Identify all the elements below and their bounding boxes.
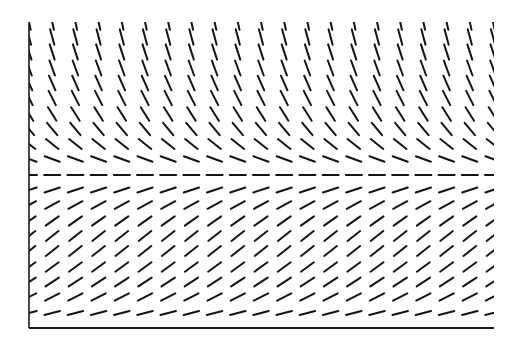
slope-segment [393, 188, 408, 193]
slope-segment [185, 278, 198, 287]
slope-segment [231, 201, 245, 209]
slope-segment [397, 91, 404, 105]
slope-segment [323, 293, 337, 300]
slope-segment [207, 293, 221, 300]
slope-segment [208, 278, 221, 287]
slope-segment [347, 216, 360, 225]
slope-segment [236, 29, 240, 44]
slope-segment [301, 139, 314, 149]
slope-segment [51, 14, 54, 30]
slope-segment [185, 246, 198, 256]
slope-segment [489, 107, 497, 121]
slope-segment [184, 311, 199, 315]
slope-segment [235, 60, 240, 75]
slope-segment [468, 29, 472, 44]
slope-segment [161, 278, 174, 287]
slope-segment [416, 156, 431, 161]
slope-segment [48, 107, 56, 121]
slope-segment [114, 188, 129, 193]
slope-segment [74, 14, 77, 30]
slope-segment [397, 76, 404, 91]
slope-segment [440, 139, 453, 149]
slope-segment [116, 231, 129, 241]
slope-segment [91, 156, 106, 161]
slope-segment [486, 201, 500, 209]
slope-segment [466, 91, 473, 105]
slope-segment [323, 311, 338, 315]
slope-segment [162, 139, 175, 149]
slope-segment [418, 123, 428, 135]
slope-segment [47, 123, 57, 135]
slope-segment [278, 216, 291, 225]
slope-segment [234, 107, 242, 121]
slope-segment [207, 156, 222, 161]
slope-segment [139, 139, 152, 149]
slope-segment [370, 201, 384, 209]
slope-segment [277, 188, 292, 193]
slope-segment [327, 76, 334, 91]
slope-segment [468, 14, 471, 30]
slope-segment [45, 188, 60, 193]
slope-segment [486, 216, 499, 225]
slope-segment [94, 107, 102, 121]
slope-segment [50, 44, 55, 59]
slope-segment [301, 278, 314, 287]
slope-segment [467, 44, 472, 59]
slope-segment [68, 201, 82, 209]
slope-segment [302, 123, 312, 135]
slope-segment [328, 44, 333, 59]
slope-segment [232, 246, 245, 256]
slope-segment [164, 107, 172, 121]
slope-segment [324, 216, 337, 225]
slope-segment [417, 139, 430, 149]
slope-segment [115, 216, 128, 225]
slope-segment [393, 278, 406, 287]
slope-segment [187, 107, 195, 121]
slope-segment [188, 91, 195, 105]
slope-segment [445, 29, 449, 44]
slope-segment [439, 156, 454, 161]
slope-segment [230, 311, 245, 315]
slope-segment [305, 29, 309, 44]
slope-segment [92, 216, 105, 225]
slope-segment [115, 293, 129, 300]
slope-segment [463, 216, 476, 225]
slope-segment [392, 311, 407, 315]
slope-segment [211, 91, 218, 105]
slope-segment [327, 91, 334, 105]
slope-segment [486, 278, 499, 287]
slope-segment [329, 29, 333, 44]
slope-segment [462, 311, 477, 315]
slope-segment [162, 262, 175, 271]
slope-segment [462, 188, 477, 193]
slope-segment [160, 311, 175, 315]
slope-segment [119, 60, 124, 75]
slope-segment [235, 76, 242, 91]
slope-segment [464, 139, 477, 149]
slope-segment [114, 311, 129, 315]
slope-segment [420, 91, 427, 105]
slope-segment [165, 91, 172, 105]
slope-segment [185, 262, 198, 271]
slope-segment [91, 293, 105, 300]
slope-segment [165, 60, 170, 75]
slope-segment [421, 60, 426, 75]
slope-segment [489, 91, 496, 105]
slope-segment [69, 246, 82, 256]
slope-segment [189, 44, 194, 59]
slope-segment [277, 156, 292, 161]
slope-segment [190, 14, 193, 30]
slope-segment [371, 262, 384, 271]
slope-segment [300, 188, 315, 193]
slope-segment [440, 262, 453, 271]
slope-segment [91, 311, 106, 315]
slope-segment [372, 123, 382, 135]
slope-segment [326, 107, 334, 121]
slope-segment [324, 262, 337, 271]
slope-segment [46, 246, 59, 256]
slope-segment [137, 156, 152, 161]
slope-segment [417, 278, 430, 287]
slope-segment [373, 91, 380, 105]
slope-segment [254, 278, 267, 287]
slope-segment [73, 44, 78, 59]
